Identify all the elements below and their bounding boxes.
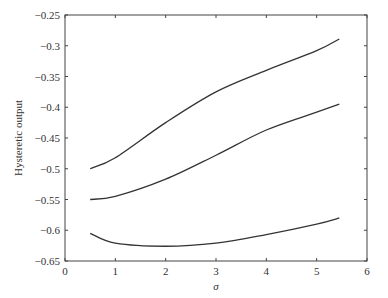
x-tick-label: 0 (62, 265, 68, 277)
y-tick-label: −0.55 (35, 194, 61, 206)
plot-frame (65, 15, 367, 261)
line-chart: 0123456−0.25−0.3−0.35−0.4−0.45−0.5−0.55−… (0, 0, 388, 298)
x-tick-label: 4 (264, 265, 270, 277)
y-tick-label: −0.35 (35, 71, 61, 83)
series-line (90, 218, 339, 246)
x-tick-label: 2 (163, 265, 169, 277)
y-tick-label: −0.25 (35, 9, 61, 21)
y-tick-label: −0.3 (40, 40, 60, 52)
y-axis-label: Hysteretic output (12, 100, 24, 176)
x-tick-label: 5 (314, 265, 320, 277)
y-tick-label: −0.4 (40, 101, 60, 113)
series-line (90, 39, 339, 169)
y-tick-label: −0.45 (35, 132, 61, 144)
x-tick-label: 1 (113, 265, 119, 277)
x-tick-label: 6 (364, 265, 370, 277)
series-line (90, 104, 339, 199)
y-tick-label: −0.65 (35, 255, 61, 267)
y-tick-label: −0.6 (40, 224, 60, 236)
plot-lines (90, 39, 339, 246)
y-tick-label: −0.5 (40, 163, 60, 175)
x-tick-label: 3 (213, 265, 219, 277)
x-axis-label: σ (213, 280, 219, 292)
